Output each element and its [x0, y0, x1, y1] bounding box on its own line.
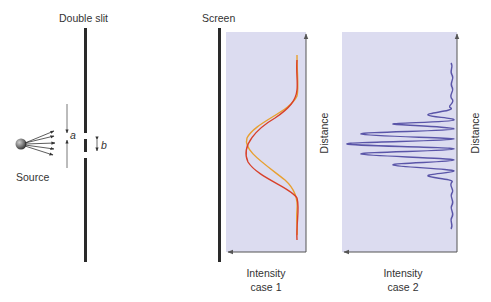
double-slit-barrier [84, 28, 87, 262]
diagram-canvas [0, 0, 491, 302]
slit-separation-a-label: a [70, 129, 76, 141]
screen-line [218, 28, 221, 262]
distance-axis-label-case2: Distance [469, 108, 481, 158]
distance-axis-label-case1: Distance [318, 108, 330, 158]
screen-label: Screen [202, 12, 235, 24]
slit-width-b-label: b [101, 139, 107, 151]
case1-panel [226, 32, 306, 252]
intensity-case1-label: Intensity case 1 [236, 266, 296, 294]
source-label: Source [16, 171, 49, 183]
intensity-case2-line1: Intensity [373, 266, 433, 280]
intensity-case1-line2: case 1 [236, 280, 296, 294]
intensity-case2-label: Intensity case 2 [373, 266, 433, 294]
intensity-case2-line2: case 2 [373, 280, 433, 294]
source-rays [25, 131, 55, 155]
intensity-case1-line1: Intensity [236, 266, 296, 280]
double-slit-label: Double slit [59, 12, 108, 24]
source-ball-icon [16, 139, 27, 150]
